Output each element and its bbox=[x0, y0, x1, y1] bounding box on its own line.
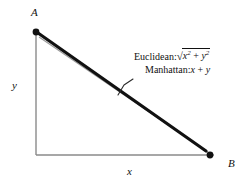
radicand-operator: + bbox=[191, 50, 202, 61]
metric-annotation-block: Euclidean:√x2 + y2 Manhattan:x + y bbox=[134, 49, 210, 76]
radicand-y-exponent: 2 bbox=[206, 49, 210, 57]
manhattan-annotation-row: Manhattan:x + y bbox=[134, 63, 210, 76]
euclidean-label: Euclidean: bbox=[134, 51, 177, 62]
euclidean-annotation-row: Euclidean:√x2 + y2 bbox=[134, 49, 210, 63]
figure-canvas bbox=[0, 0, 248, 187]
manhattan-y-term: y bbox=[206, 64, 210, 75]
point-b-label: B bbox=[228, 158, 235, 169]
radicand: x2 + y2 bbox=[182, 48, 211, 62]
manhattan-formula: x + y bbox=[191, 64, 211, 75]
manhattan-operator: + bbox=[195, 64, 206, 75]
y-axis-label: y bbox=[12, 80, 17, 91]
x-axis-label: x bbox=[127, 166, 132, 177]
distance-metric-figure: A B y x Euclidean:√x2 + y2 Manhattan:x +… bbox=[0, 0, 248, 187]
point-a-marker bbox=[33, 29, 40, 36]
euclidean-formula: √x2 + y2 bbox=[177, 49, 211, 63]
manhattan-label: Manhattan: bbox=[145, 64, 191, 75]
point-b-marker bbox=[207, 152, 214, 159]
point-a-label: A bbox=[31, 7, 38, 18]
